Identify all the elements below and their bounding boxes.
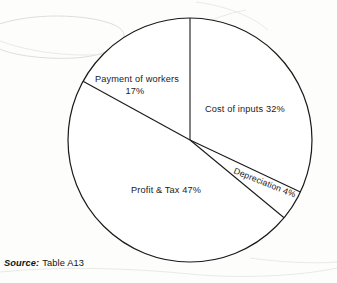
slice-label-cost-of-inputs: Cost of inputs 32% xyxy=(205,104,285,114)
pie-chart-canvas: Cost of inputs 32% Depreciation 4% Profi… xyxy=(0,0,337,283)
source-note: Source:Table A13 xyxy=(4,258,84,268)
slice-label-payment-of-workers-line2: 17% xyxy=(126,86,145,96)
slice-label-profit-and-tax-text: Profit & Tax 47% xyxy=(131,185,201,195)
pie-chart-figure: Cost of inputs 32% Depreciation 4% Profi… xyxy=(0,0,337,283)
artifact-arc-bottom-right xyxy=(250,258,337,263)
slice-label-payment-of-workers-line1: Payment of workers xyxy=(95,74,179,84)
slice-label-cost-of-inputs-text: Cost of inputs 32% xyxy=(205,104,285,114)
slice-label-profit-and-tax: Profit & Tax 47% xyxy=(131,185,201,195)
artifact-sweep-bottom xyxy=(0,268,337,276)
source-note-label: Source: xyxy=(4,258,39,268)
source-note-value: Table A13 xyxy=(42,258,84,268)
